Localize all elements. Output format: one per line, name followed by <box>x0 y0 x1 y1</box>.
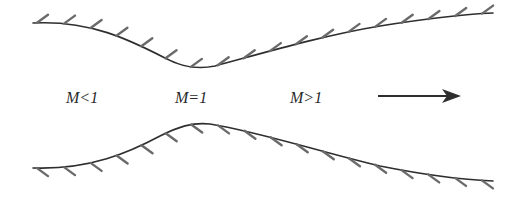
hatch-mark <box>142 145 153 153</box>
sonic-label: M=1 <box>175 90 207 106</box>
hatch-mark <box>37 15 48 23</box>
hatch-mark <box>166 50 177 58</box>
hatch-mark <box>166 133 177 141</box>
hatch-mark <box>116 28 127 36</box>
hatch-mark <box>64 16 75 24</box>
hatch-mark <box>141 38 152 46</box>
upper-nozzle-wall <box>33 6 493 68</box>
hatch-mark <box>191 59 202 67</box>
hatch-mark <box>64 167 75 175</box>
flow-direction-arrow <box>378 89 461 103</box>
hatch-mark <box>191 125 202 133</box>
subsonic-label: M<1 <box>66 90 98 106</box>
supersonic-label: M>1 <box>290 90 322 106</box>
lower-nozzle-wall <box>33 124 493 189</box>
upper-wall-hatching <box>37 6 493 67</box>
hatch-mark <box>117 156 128 164</box>
hatch-mark <box>91 20 102 28</box>
lower-wall-hatching <box>37 125 493 189</box>
hatch-mark <box>91 163 102 171</box>
hatch-mark <box>37 168 48 176</box>
